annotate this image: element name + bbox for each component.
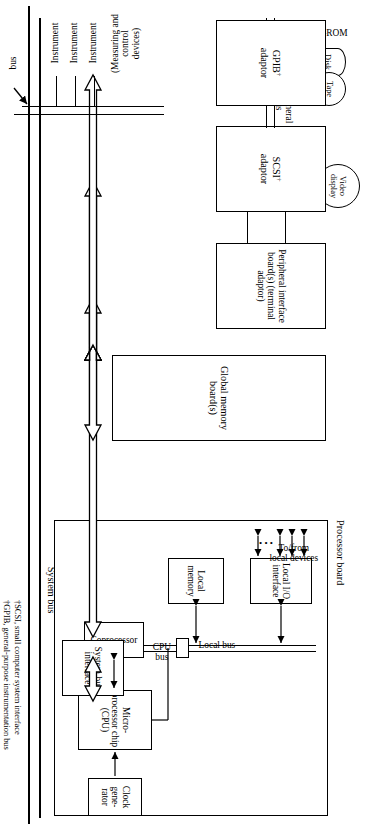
gpib-sysbus-arrow xyxy=(0,0,382,835)
block-diagram: System bus †SCSI, small computer system … xyxy=(0,0,382,835)
diagram-canvas: System bus †SCSI, small computer system … xyxy=(0,0,382,835)
